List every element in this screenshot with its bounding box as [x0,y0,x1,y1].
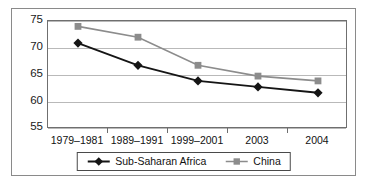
series-africa-marker [253,82,262,91]
xtick-label-2004: 2004 [305,134,328,146]
legend-label-sub-saharan-africa: Sub-Saharan Africa [115,155,206,167]
legend-item-china: China [224,155,280,167]
x-axis: 1979–1981 1989–1991 1999–2001 2003 2004 [47,128,347,150]
chart-figure: 75 70 65 60 55 1979–1981 1989–1991 1999–… [11,8,356,176]
xtick-separator [167,128,168,133]
ytick-label-65: 65 [13,68,43,80]
ytick-label-55: 55 [13,121,43,133]
legend-marker-diamond-icon [86,156,110,167]
series-africa-marker [193,76,202,85]
series-china-marker [75,23,82,30]
series-africa-marker [73,39,82,48]
xtick-separator [227,128,228,133]
series-africa-marker [133,61,142,70]
series-china-marker [195,62,202,69]
xtick-label-2003: 2003 [245,134,268,146]
xtick-separator [107,128,108,133]
ytick-label-60: 60 [13,95,43,107]
series-china-line [78,26,318,81]
series-plot [48,21,348,129]
xtick-label-1999-2001: 1999–2001 [171,134,224,146]
series-china-marker [315,78,322,85]
plot-area [47,20,347,128]
series-china [75,23,322,84]
xtick-label-1989-1991: 1989–1991 [111,134,164,146]
ytick-label-70: 70 [13,41,43,53]
series-china-marker [255,73,262,80]
xtick-separator [287,128,288,133]
legend-marker-square-icon [224,156,248,167]
series-africa-marker [313,88,322,97]
legend-item-sub-saharan-africa: Sub-Saharan Africa [86,155,206,167]
legend-label-china: China [253,155,280,167]
plot-wrapper: 75 70 65 60 55 [47,20,347,128]
series-china-marker [135,34,142,41]
chart-legend: Sub-Saharan Africa China [76,152,291,171]
ytick-label-75: 75 [13,14,43,26]
xtick-label-1979-1981: 1979–1981 [51,134,104,146]
